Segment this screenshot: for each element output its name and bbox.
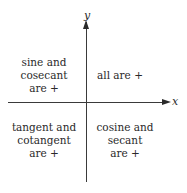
quadrant-1-label: all are + — [92, 69, 148, 82]
y-axis-label: y — [84, 10, 90, 21]
x-axis-label: x — [172, 96, 178, 107]
x-axis-arrow-icon — [162, 99, 171, 105]
x-axis-line — [8, 102, 168, 103]
y-axis-line — [86, 22, 87, 182]
quadrant-4-label: cosine and secant are + — [88, 121, 162, 160]
quadrant-3-label: tangent and cotangent are + — [4, 121, 84, 160]
quadrant-2-label: sine and cosecant are + — [4, 56, 84, 95]
